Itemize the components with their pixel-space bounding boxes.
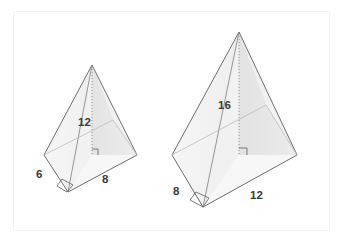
large-pyramid-height-label: 16 bbox=[218, 99, 231, 111]
small-pyramid-base-left-label: 6 bbox=[36, 168, 43, 180]
large-pyramid-group: 16 8 12 bbox=[172, 32, 297, 207]
large-pyramid-base-left-label: 8 bbox=[173, 185, 180, 197]
small-pyramid-group: 12 6 8 bbox=[36, 65, 137, 192]
pyramids-diagram: 12 6 8 16 8 12 bbox=[0, 0, 343, 243]
large-pyramid-base-right-label: 12 bbox=[250, 189, 263, 201]
small-pyramid-base-right-label: 8 bbox=[102, 173, 109, 185]
small-pyramid-height-label: 12 bbox=[78, 116, 91, 128]
geometry-figure-canvas: 12 6 8 16 8 12 bbox=[0, 0, 343, 243]
